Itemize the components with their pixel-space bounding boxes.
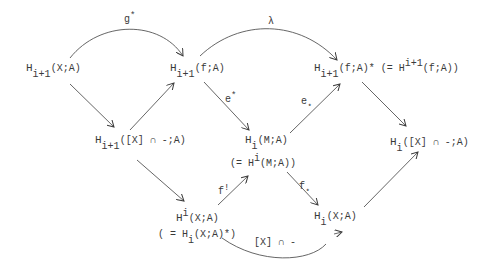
node-equiv-open: (= H	[375, 63, 405, 74]
node-h-i1-cap: Hi+1([X] ∩ -;A)	[95, 134, 186, 147]
node-h-i-cap: Hi([X] ∩ -;A)	[390, 136, 469, 149]
node-subscript: i+1	[177, 69, 195, 80]
node-h-i-m-a-equiv: (= Hi(M;A))	[230, 158, 296, 170]
node-h-i1-x-a: Hi+1(X;A)	[26, 62, 81, 75]
node-symbol: H	[314, 62, 321, 74]
label-e-star: e*	[225, 94, 236, 106]
label-text: λ	[268, 16, 274, 27]
node-h-sup-i-x-a: Hi(X;A)	[176, 212, 219, 225]
node-symbol: H	[170, 62, 177, 74]
node-args: ([X] ∩ -;A)	[403, 137, 469, 148]
node-args: (M;A)	[258, 135, 288, 146]
arrow-e-lower-star	[290, 84, 340, 133]
label-subscript: ⋆	[305, 186, 310, 196]
arrow-e-star	[204, 82, 249, 130]
node-symbol: H	[95, 134, 102, 146]
node-args: (X;A)	[51, 63, 81, 74]
label-g-star: g*	[124, 14, 135, 26]
label-superscript: *	[130, 11, 135, 21]
node-subscript: i+1	[321, 69, 339, 80]
label-e-lower-star: e⋆	[301, 96, 312, 108]
node-args: ([X] ∩ -;A)	[120, 135, 186, 146]
label-superscript: !	[224, 183, 229, 193]
commutative-diagram: Hi+1(X;A) Hi+1(f;A) Hi+1(f;A)* (= Hi+1(f…	[0, 0, 495, 276]
arrow-n3-n6	[362, 82, 406, 126]
node-subscript: i+1	[102, 141, 120, 152]
arrow-lambda	[200, 29, 337, 60]
node-h-i1-f-a-dual: Hi+1(f;A)* (= Hi+1(f;A))	[314, 62, 459, 75]
arrow-cap-head	[334, 232, 342, 234]
node-equiv-open: (= H	[230, 158, 254, 169]
node-h-i1-f-a: Hi+1(f;A)	[170, 62, 225, 75]
label-f-shriek: f!	[218, 186, 229, 198]
node-equiv-args: (f;A))	[423, 63, 459, 74]
node-symbol: H	[314, 210, 321, 222]
label-lambda: λ	[268, 16, 274, 28]
node-equiv-open: ( = H	[158, 229, 188, 240]
node-symbol: H	[176, 212, 183, 224]
node-h-i-x-a: Hi(X;A)	[314, 210, 357, 223]
node-args: (X;A)	[189, 213, 219, 224]
node-equiv-superscript: i+1	[405, 58, 423, 69]
node-equiv-args: (X;A)*)	[194, 229, 236, 240]
arrow-n4-n7	[137, 160, 184, 201]
arrow-n4-n2	[130, 83, 174, 130]
node-equiv-args: (M;A))	[260, 158, 296, 169]
node-h-sup-i-x-a-equiv: ( = Hi(X;A)*)	[158, 229, 236, 241]
label-superscript: *	[231, 91, 236, 101]
node-subscript: i+1	[33, 69, 51, 80]
node-symbol: H	[26, 62, 33, 74]
node-h-i-m-a: Hi(M;A)	[245, 134, 288, 147]
label-f-star: f⋆	[299, 181, 310, 193]
arrow-n8-n6	[364, 152, 418, 207]
node-args: (f;A)	[195, 63, 225, 74]
node-args: (X;A)	[327, 211, 357, 222]
node-symbol: H	[245, 134, 252, 146]
label-text: [X] ∩ -	[254, 237, 296, 248]
arrow-n1-n4	[70, 84, 114, 127]
arrow-g-star	[70, 29, 183, 58]
node-args: (f;A)*	[339, 63, 375, 74]
label-cap: [X] ∩ -	[254, 237, 296, 249]
label-subscript: ⋆	[307, 101, 312, 111]
node-symbol: H	[390, 136, 397, 148]
